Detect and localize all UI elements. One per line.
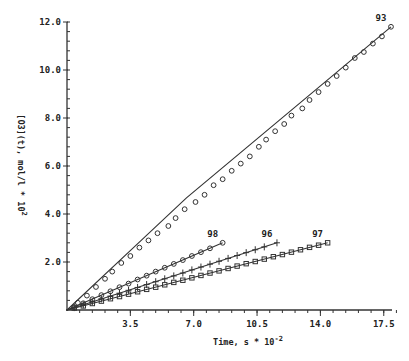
data-point-series-93 <box>264 137 269 142</box>
data-point-series-93 <box>220 177 225 182</box>
data-point-series-93 <box>94 285 99 290</box>
data-point-series-93 <box>229 168 234 173</box>
data-point-series-93 <box>166 224 171 229</box>
data-point-series-96 <box>171 272 177 279</box>
data-point-series-96 <box>225 255 231 262</box>
series-label-97: 97 <box>312 229 323 239</box>
data-point-series-93 <box>146 238 151 243</box>
markers <box>71 24 393 311</box>
data-point-series-96 <box>234 252 240 259</box>
data-point-series-93 <box>238 161 243 166</box>
data-point-series-93 <box>289 113 294 118</box>
y-tick-label: 6.0 <box>45 161 61 171</box>
x-axis-title: Time, s * 10-2 <box>213 335 283 347</box>
chart: 3.57.010.514.017.52.04.06.08.010.012.0 9… <box>0 0 409 361</box>
data-point-series-93 <box>343 65 348 70</box>
fit-line-series-93 <box>67 27 391 310</box>
data-point-series-93 <box>202 192 207 197</box>
data-point-series-96 <box>207 261 213 268</box>
data-point-series-93 <box>273 129 278 134</box>
data-point-series-93 <box>334 74 339 79</box>
data-point-series-93 <box>119 261 124 266</box>
x-axis-title-text: Time, s * 10 <box>213 337 274 347</box>
data-point-series-93 <box>110 269 115 274</box>
data-point-series-93 <box>173 216 178 221</box>
data-point-series-93 <box>75 300 80 305</box>
data-point-series-93 <box>193 200 198 205</box>
data-point-series-93 <box>361 50 366 55</box>
data-point-series-93 <box>300 106 305 111</box>
series-labels: 93989697 <box>207 13 386 239</box>
fit-lines <box>67 27 391 310</box>
y-axis-title-text: [O3](t), mol/l * 10 <box>16 114 26 211</box>
data-point-series-96 <box>180 270 186 277</box>
data-point-series-96 <box>243 249 249 256</box>
series-label-98: 98 <box>207 229 218 239</box>
x-tick-label: 3.5 <box>122 319 138 329</box>
data-point-series-96 <box>153 278 159 285</box>
y-tick-label: 12.0 <box>39 17 61 27</box>
x-tick-label: 14.0 <box>310 319 332 329</box>
axes <box>66 22 392 311</box>
data-point-series-93 <box>182 207 187 212</box>
data-point-series-93 <box>128 254 133 259</box>
data-point-series-96 <box>252 246 258 253</box>
x-tick-label: 10.5 <box>246 319 268 329</box>
x-tick-label: 17.5 <box>373 319 395 329</box>
y-tick-label: 10.0 <box>39 65 61 75</box>
y-tick-label: 2.0 <box>45 257 61 267</box>
data-point-series-96 <box>198 264 204 271</box>
data-point-series-93 <box>85 293 90 298</box>
x-tick-label: 7.0 <box>186 319 202 329</box>
data-point-series-93 <box>316 90 321 95</box>
series-label-93: 93 <box>376 13 387 23</box>
data-point-series-93 <box>247 154 252 159</box>
data-point-series-96 <box>162 275 168 282</box>
data-point-series-93 <box>137 245 142 250</box>
x-axis-title-exponent: -2 <box>274 335 282 343</box>
data-point-series-96 <box>216 258 222 265</box>
data-point-series-93 <box>307 98 312 103</box>
y-tick-label: 4.0 <box>45 209 61 219</box>
y-axis-title: [O3](t), mol/l * 102 <box>16 114 28 215</box>
y-tick-label: 8.0 <box>45 113 61 123</box>
data-point-series-96 <box>274 239 280 246</box>
data-point-series-93 <box>282 122 287 127</box>
data-point-series-93 <box>103 276 108 281</box>
series-label-96: 96 <box>262 229 273 239</box>
data-point-series-93 <box>211 183 216 188</box>
data-point-series-96 <box>189 266 195 273</box>
data-point-series-93 <box>325 82 330 87</box>
y-axis-title-exponent: 2 <box>20 212 28 216</box>
data-point-series-93 <box>256 144 261 149</box>
data-point-series-96 <box>261 243 267 250</box>
data-point-series-93 <box>155 231 160 236</box>
